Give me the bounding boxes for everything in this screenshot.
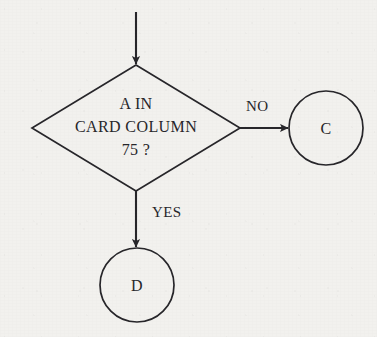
- branch-no-label: NO: [246, 99, 268, 114]
- flowchart-canvas: A IN CARD COLUMN 75 ? NO YES C D: [0, 0, 377, 337]
- connector-d-label: D: [131, 278, 143, 294]
- decision-text-line3: 75 ?: [122, 142, 151, 158]
- decision-text-line2: CARD COLUMN: [75, 119, 197, 135]
- connector-c-label: C: [320, 121, 331, 137]
- decision-text-line1: A IN: [119, 96, 152, 112]
- flowchart-vector-layer: [0, 0, 377, 337]
- branch-yes-label: YES: [152, 205, 182, 220]
